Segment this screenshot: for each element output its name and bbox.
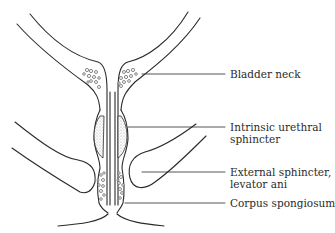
label-external-sphincter: External sphincter, levator ani [230, 166, 331, 190]
glands-bladder-neck [83, 68, 138, 88]
bladder-wall-right-inner [118, 12, 188, 205]
perineum-left [58, 214, 108, 226]
label-corpus-spongiosum: Corpus spongiosum [230, 197, 335, 209]
glands-corpus-spongiosum [97, 172, 124, 201]
bladder-wall-left-outer [17, 24, 100, 110]
levator-left-upper [12, 122, 95, 193]
label-bladder-neck: Bladder neck [230, 68, 301, 80]
levator-right-upper [129, 124, 206, 188]
perineum-right [117, 214, 164, 226]
bladder-wall-right-outer [121, 18, 200, 110]
label-intrinsic-urethral-sphincter: Intrinsic urethral sphincter [230, 121, 322, 145]
